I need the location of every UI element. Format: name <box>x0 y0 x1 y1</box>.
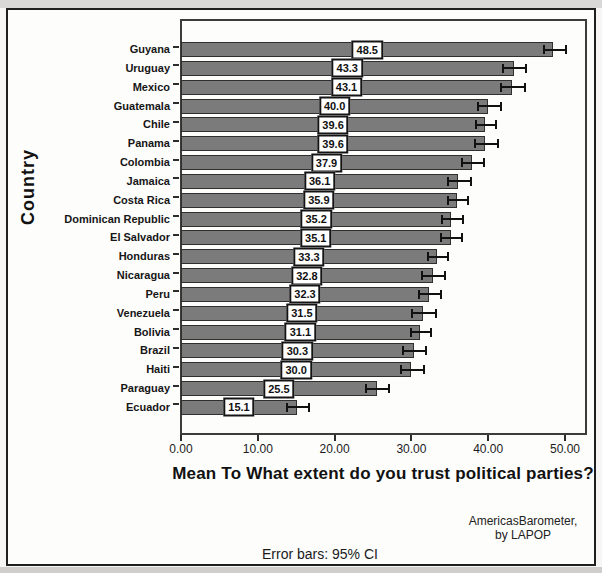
y-axis-title: Country <box>18 149 39 225</box>
source-line2: by LAPOP <box>495 528 551 542</box>
page-edge-top <box>0 0 602 8</box>
page-edge-bottom <box>0 567 602 573</box>
x-axis-title: Mean To What extent do you trust politic… <box>163 464 602 483</box>
source-line1: AmericasBarometer, <box>469 514 578 528</box>
plot-area <box>180 19 587 435</box>
error-bars-note: Error bars: 95% CI <box>200 546 440 562</box>
chart-figure: Country 48.5Guyana43.3Uruguay43.1Mexico4… <box>0 0 602 573</box>
source-attribution: AmericasBarometer, by LAPOP <box>460 514 586 542</box>
